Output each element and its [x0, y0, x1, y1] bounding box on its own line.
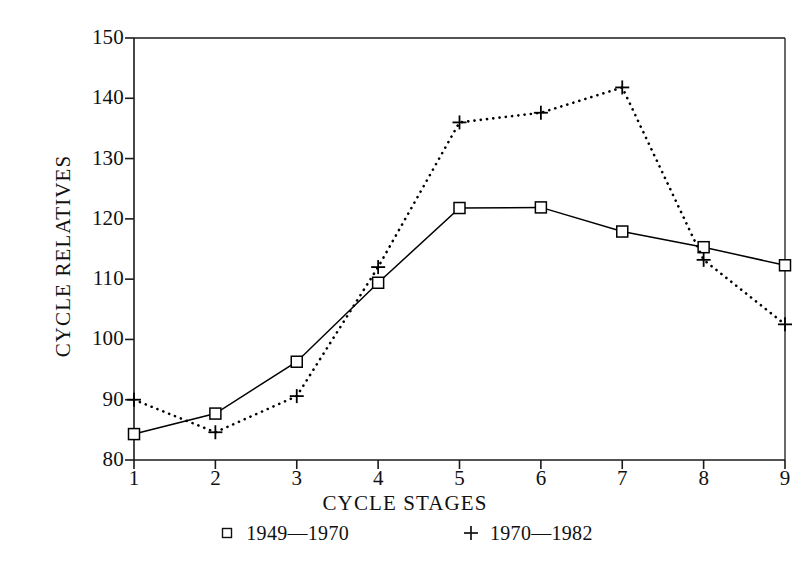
data-point-1-3 — [291, 356, 302, 367]
axis-tick-marks — [125, 38, 785, 469]
legend-entry-series1: 1949—1970 — [217, 522, 349, 544]
data-point-1-7 — [617, 226, 628, 237]
chart-figure: CYCLE RELATIVES 1501401301201101009080 1… — [0, 0, 810, 567]
legend-label-series1: 1949—1970 — [246, 522, 349, 544]
data-point-1-5 — [454, 203, 465, 214]
square-marker-icon — [210, 408, 221, 419]
data-point-1-1 — [129, 429, 140, 440]
data-point-1-2 — [210, 408, 221, 419]
square-marker-icon — [291, 356, 302, 367]
square-marker-icon — [617, 226, 628, 237]
legend-label-series2: 1970—1982 — [490, 522, 593, 544]
square-marker-icon — [535, 202, 546, 213]
data-point-2-8 — [697, 253, 711, 267]
series-line-1 — [134, 207, 785, 434]
square-marker-icon — [217, 523, 237, 543]
data-point-2-7 — [615, 80, 629, 94]
chart-plot-svg — [0, 0, 810, 567]
data-point-2-5 — [453, 115, 467, 129]
data-point-1-4 — [373, 277, 384, 288]
chart-legend: 1949—1970 1970—1982 — [0, 518, 810, 548]
data-point-1-6 — [535, 202, 546, 213]
data-point-1-9 — [780, 260, 791, 271]
axis-lines — [134, 38, 785, 460]
data-point-2-6 — [534, 106, 548, 120]
data-point-2-1 — [127, 393, 141, 407]
series-line-2 — [134, 87, 785, 432]
square-marker-icon — [780, 260, 791, 271]
data-point-2-9 — [778, 317, 792, 331]
data-point-2-3 — [290, 389, 304, 403]
data-point-2-2 — [208, 425, 222, 439]
square-marker-icon — [129, 429, 140, 440]
data-point-2-4 — [371, 260, 385, 274]
legend-entry-series2: 1970—1982 — [461, 522, 593, 544]
square-marker-icon — [454, 203, 465, 214]
square-marker-icon — [373, 277, 384, 288]
data-series-layer — [127, 80, 792, 439]
plus-marker-icon — [461, 523, 481, 543]
